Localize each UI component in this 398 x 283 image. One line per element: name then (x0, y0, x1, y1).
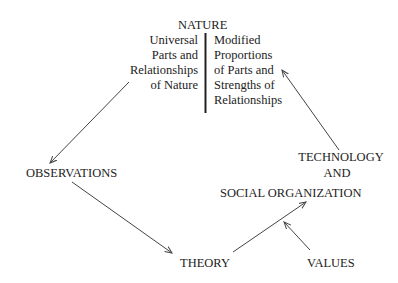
arrow-values-to-technology (284, 222, 310, 250)
arrow-observations-to-theory (72, 182, 172, 253)
nature-left-line: Parts and (130, 48, 198, 63)
technology-node: TECHNOLOGY AND (272, 149, 398, 181)
values-node: VALUES (307, 257, 355, 270)
nature-right-line: Relationships (214, 93, 282, 108)
observations-node: OBSERVATIONS (26, 167, 117, 180)
nature-modified-block: Modified Proportions of Parts and Streng… (214, 33, 282, 108)
technology-line-2: AND (272, 165, 398, 181)
arrow-theory-to-technology (233, 202, 306, 252)
nature-universal-block: Universal Parts and Relationships of Nat… (130, 33, 198, 93)
nature-left-line: of Nature (130, 78, 198, 93)
social-organization-label: SOCIAL ORGANIZATION (220, 187, 362, 200)
nature-title: NATURE (178, 19, 227, 32)
arrow-nature-to-observations (50, 82, 129, 163)
arrows-layer (0, 0, 398, 283)
nature-right-line: Strengths of (214, 78, 282, 93)
arrow-technology-to-nature (282, 70, 339, 150)
nature-right-line: of Parts and (214, 63, 282, 78)
technology-line-1: TECHNOLOGY (280, 149, 398, 165)
nature-right-line: Proportions (214, 48, 282, 63)
theory-node: THEORY (180, 257, 230, 270)
nature-left-line: Relationships (130, 63, 198, 78)
nature-left-line: Universal (130, 33, 198, 48)
nature-right-line: Modified (214, 33, 282, 48)
